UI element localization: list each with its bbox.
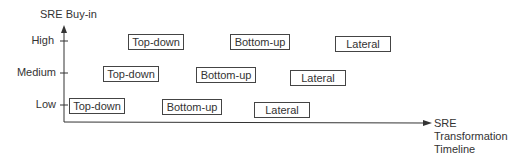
box-low-top-down: Top-down: [69, 98, 125, 114]
box-high-top-down: Top-down: [128, 34, 184, 50]
y-tick-medium: Medium: [2, 66, 56, 78]
box-low-bottom-up: Bottom-up: [162, 99, 222, 115]
x-axis-title-line2: Transformation: [434, 130, 508, 142]
x-axis-title-line3: Timeline: [434, 143, 475, 155]
box-medium-bottom-up: Bottom-up: [196, 67, 256, 83]
x-axis-title-line1: SRE: [434, 117, 457, 129]
box-medium-top-down: Top-down: [103, 66, 159, 82]
box-medium-lateral: Lateral: [290, 70, 346, 86]
box-high-lateral: Lateral: [335, 36, 391, 52]
y-tick-high: High: [0, 34, 54, 46]
box-high-bottom-up: Bottom-up: [230, 34, 290, 50]
y-tick-low: Low: [2, 98, 56, 110]
box-low-lateral: Lateral: [254, 102, 310, 118]
y-axis-title: SRE Buy-in: [40, 8, 97, 20]
